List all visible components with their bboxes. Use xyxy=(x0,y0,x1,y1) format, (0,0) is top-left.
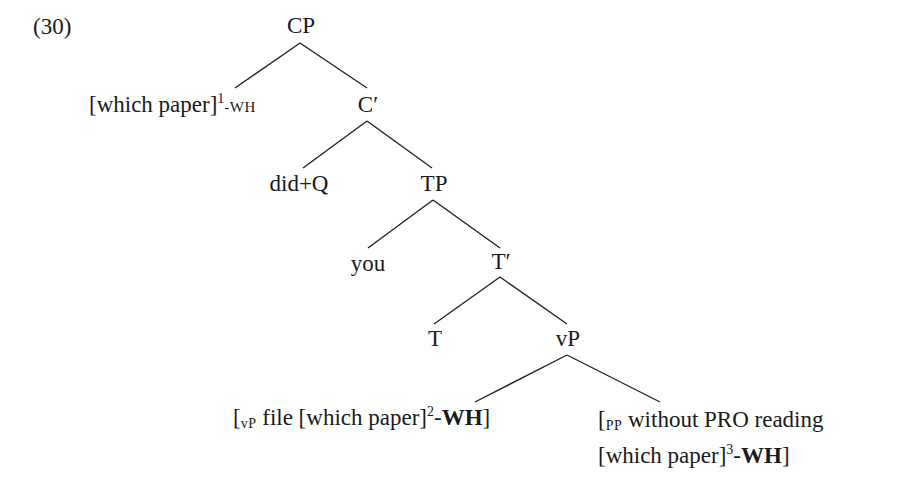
node-c-bar: C′ xyxy=(358,92,378,118)
vp-complement-label: vP xyxy=(241,416,257,431)
bracket-close: ] xyxy=(483,405,491,430)
node-vp-complement: [vP file [which paper]2-WH] xyxy=(233,405,490,437)
dash: - xyxy=(733,443,741,468)
bracket-close: ] xyxy=(782,443,790,468)
pp-adjunct-label: PP xyxy=(606,418,623,433)
node-t-head: T xyxy=(428,326,442,352)
vp-complement-text: file [which paper] xyxy=(256,405,427,430)
node-tp: TP xyxy=(421,171,448,197)
vp-complement-index: 2 xyxy=(427,404,434,419)
pp-adjunct-feature: WH xyxy=(741,443,782,468)
example-number: (30) xyxy=(33,14,71,40)
node-c-head: did+Q xyxy=(270,171,329,197)
bracket-open: [ xyxy=(233,405,241,430)
spec-cp-text: [which paper] xyxy=(89,92,217,117)
pp-adjunct-line1: [PP without PRO reading xyxy=(598,405,824,441)
pp-adjunct-wh: [which paper] xyxy=(598,443,726,468)
dash: - xyxy=(434,405,442,430)
node-t-bar: T′ xyxy=(491,249,510,275)
node-spec-tp: you xyxy=(351,251,386,277)
node-cp: CP xyxy=(287,13,315,39)
node-spec-cp: [which paper]1-WH xyxy=(89,92,256,120)
bracket-open: [ xyxy=(598,407,606,432)
spec-cp-feature: -WH xyxy=(224,99,256,115)
node-vp: vP xyxy=(556,326,580,352)
vp-complement-feature: WH xyxy=(442,405,483,430)
node-pp-adjunct: [PP without PRO reading [which paper]3-W… xyxy=(598,405,824,471)
pp-adjunct-line2: [which paper]3-WH] xyxy=(598,441,824,471)
pp-adjunct-text: without PRO reading xyxy=(622,407,823,432)
